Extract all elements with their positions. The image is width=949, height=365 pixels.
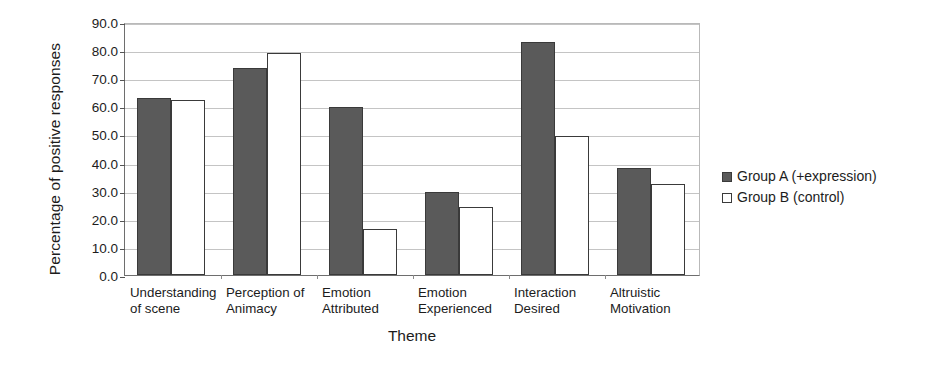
bar-group-a (425, 192, 459, 275)
y-axis-tick-label: 20.0 (66, 212, 118, 227)
bar-group-a (617, 168, 651, 275)
x-axis-category-label: Emotion Experienced (418, 285, 510, 317)
bar-group-b (267, 53, 301, 275)
plot-area (124, 23, 700, 276)
y-axis-tick-label: 60.0 (66, 100, 118, 115)
y-axis-tick-label: 40.0 (66, 156, 118, 171)
x-axis-tick-mark (605, 275, 606, 279)
outline-square-icon (722, 193, 732, 203)
bar-group-b (171, 100, 205, 275)
y-axis-tick-label: 10.0 (66, 240, 118, 255)
bar-chart-figure: Percentage of positive responses 0.010.0… (0, 0, 949, 365)
bar-group-a (329, 107, 363, 275)
bar-group-b (555, 136, 589, 275)
bar-group (509, 24, 605, 275)
x-axis-tick-mark (413, 275, 414, 279)
bar-group (317, 24, 413, 275)
chart-legend: Group A (+expression)Group B (control) (722, 166, 877, 208)
legend-item-label: Group A (+expression) (737, 166, 877, 187)
x-axis-tick-mark (221, 275, 222, 279)
bar-group (605, 24, 701, 275)
y-axis-tick-label: 30.0 (66, 184, 118, 199)
x-axis-tick-mark (317, 275, 318, 279)
bar-group-b (363, 229, 397, 275)
x-axis-tick-mark (509, 275, 510, 279)
y-axis-tick-label: 80.0 (66, 44, 118, 59)
legend-item: Group B (control) (722, 187, 877, 208)
x-axis-category-label: Emotion Attributed (322, 285, 414, 317)
bar-group-a (137, 98, 171, 275)
y-axis-tick-label: 90.0 (66, 16, 118, 31)
bar-group-b (651, 184, 685, 275)
filled-square-icon (722, 172, 732, 182)
legend-item-label: Group B (control) (737, 187, 844, 208)
x-axis-category-label: Interaction Desired (514, 285, 606, 317)
bar-group (125, 24, 221, 275)
y-axis-tick-label: 0.0 (66, 269, 118, 284)
y-axis-tick-mark (120, 277, 125, 278)
bar-group (413, 24, 509, 275)
y-axis-tick-label: 50.0 (66, 128, 118, 143)
bar-group-b (459, 207, 493, 275)
y-axis-tick-labels: 0.010.020.030.040.050.060.070.080.090.0 (62, 23, 118, 276)
y-axis-tick-label: 70.0 (66, 72, 118, 87)
x-axis-category-label: Understanding of scene (130, 285, 222, 317)
x-axis-title: Theme (124, 327, 700, 345)
bar-group (221, 24, 317, 275)
legend-item: Group A (+expression) (722, 166, 877, 187)
x-axis-category-label: Perception of Animacy (226, 285, 318, 317)
x-axis-category-label: Altruistic Motivation (610, 285, 702, 317)
bar-group-a (521, 42, 555, 275)
bar-group-a (233, 68, 267, 275)
